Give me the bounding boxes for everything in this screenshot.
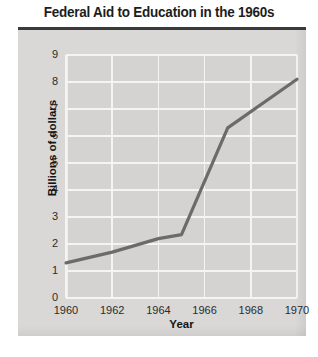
- y-tick-label: 1: [24, 264, 58, 276]
- panel-edge-shadow-right: [294, 30, 306, 336]
- data-line-svg: [66, 55, 297, 298]
- x-tick-label: 1962: [89, 304, 135, 316]
- x-tick-label: 1960: [43, 304, 89, 316]
- y-tick-label: 8: [24, 75, 58, 87]
- y-tick-label: 9: [24, 48, 58, 60]
- data-line-series-1: [66, 79, 297, 263]
- title-band: Federal Aid to Education in the 1960s: [12, 0, 306, 30]
- y-tick-label: 3: [24, 210, 58, 222]
- plot-area: [66, 55, 297, 298]
- y-axis-title: Billions of dollars: [46, 88, 58, 208]
- x-tick-label: 1964: [135, 304, 181, 316]
- y-tick-label: 2: [24, 237, 58, 249]
- x-tick-label: 1966: [182, 304, 228, 316]
- chart-panel: 0123456789 196019621964196619681970 Bill…: [18, 30, 306, 336]
- y-tick-label: 0: [24, 291, 58, 303]
- chart-title: Federal Aid to Education in the 1960s: [22, 4, 295, 20]
- chart-figure: Federal Aid to Education in the 1960s 01…: [12, 0, 306, 336]
- x-tick-label: 1968: [228, 304, 274, 316]
- panel-edge-shadow-bottom: [18, 326, 306, 336]
